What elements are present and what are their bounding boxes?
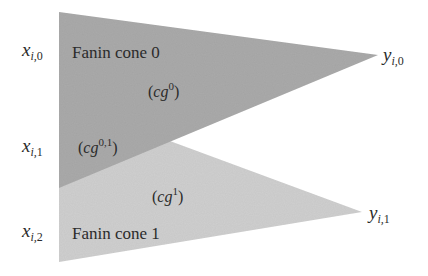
output-label-y-i-0: yi,0 xyxy=(383,45,404,67)
region-label-cg01: (cg0,1) xyxy=(78,137,118,156)
output-label-y-i-1: yi,1 xyxy=(369,203,390,225)
input-label-x-i-0: xi,0 xyxy=(22,40,43,62)
region-label-cg0: (cg0) xyxy=(148,81,179,100)
input-label-x-i-1: xi,1 xyxy=(22,136,43,158)
fanin-cone-0-title: Fanin cone 0 xyxy=(72,44,160,61)
region-label-cg1: (cg1) xyxy=(152,186,183,205)
input-label-x-i-2: xi,2 xyxy=(22,221,43,243)
fanin-cone-1-title: Fanin cone 1 xyxy=(72,225,160,242)
diagram-canvas xyxy=(0,0,428,276)
